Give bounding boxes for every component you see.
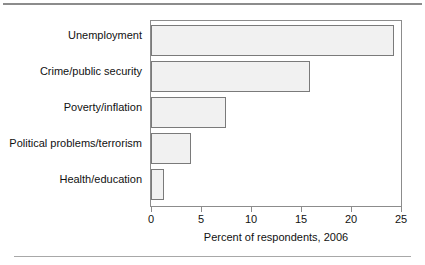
x-tick (151, 207, 152, 212)
x-tick-label: 10 (245, 213, 257, 225)
x-tick-label: 15 (295, 213, 307, 225)
category-label: Health/education (59, 164, 142, 195)
bar-rect (151, 61, 310, 92)
category-label: Poverty/inflation (64, 92, 142, 123)
x-tick (251, 207, 252, 212)
x-tick-label: 0 (148, 213, 154, 225)
top-rule (3, 3, 422, 5)
bar-rect (151, 97, 226, 128)
plot-area (150, 20, 402, 207)
category-label: Crime/public security (40, 56, 142, 87)
category-axis-labels: Unemployment Crime/public security Pover… (0, 20, 146, 207)
bar (151, 25, 394, 56)
x-tick (351, 207, 352, 212)
x-tick-label: 20 (345, 213, 357, 225)
bar-rect (151, 25, 394, 56)
bar (151, 169, 164, 200)
bottom-rule (14, 256, 411, 257)
bar-rect (151, 133, 191, 164)
bar (151, 97, 226, 128)
x-tick-label: 25 (395, 213, 407, 225)
bar-series (151, 21, 401, 206)
bar (151, 61, 310, 92)
figure: Unemployment Crime/public security Pover… (0, 0, 425, 265)
category-label: Unemployment (68, 20, 142, 51)
x-axis-title: Percent of respondents, 2006 (150, 231, 402, 243)
bar (151, 133, 191, 164)
x-tick (301, 207, 302, 212)
x-tick-label: 5 (198, 213, 204, 225)
x-tick (201, 207, 202, 212)
bar-rect (151, 169, 164, 200)
x-tick (401, 207, 402, 212)
category-label: Political problems/terrorism (9, 128, 142, 159)
